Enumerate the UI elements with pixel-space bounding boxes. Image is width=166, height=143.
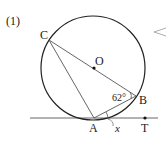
label-B: B: [139, 93, 147, 107]
partial-shape-edge: [154, 28, 166, 36]
label-O: O: [95, 54, 104, 68]
label-A: A: [89, 121, 98, 135]
angle-pointer-x: [108, 119, 113, 126]
geometry-diagram: (1) C O B A T 62° x: [0, 0, 166, 143]
unknown-angle-x: x: [114, 122, 120, 134]
problem-number: (1): [6, 14, 20, 28]
chord-CA: [49, 40, 94, 118]
angle-arc-x: [106, 112, 108, 118]
angle-label-62: 62°: [112, 92, 126, 103]
point-T: [143, 116, 146, 119]
label-C: C: [40, 28, 48, 42]
label-T: T: [141, 121, 149, 135]
